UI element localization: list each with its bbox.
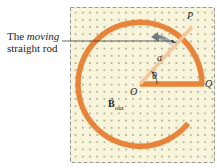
label-a: a bbox=[157, 52, 162, 64]
label-b-field: → B out bbox=[108, 98, 124, 114]
label-theta: θ bbox=[152, 70, 157, 82]
vector-arrow-icon: → bbox=[108, 92, 115, 104]
label-q: Q bbox=[205, 78, 212, 90]
diagram-canvas bbox=[0, 0, 217, 168]
caption-italic-word: moving bbox=[27, 30, 59, 42]
caption-line-1: The moving bbox=[7, 30, 59, 42]
label-p: P bbox=[187, 10, 193, 22]
label-o: O bbox=[130, 86, 137, 98]
label-b-sub: out bbox=[115, 104, 124, 112]
caption-line-2: straight rod bbox=[7, 42, 57, 54]
caption-prefix: The bbox=[7, 30, 27, 42]
